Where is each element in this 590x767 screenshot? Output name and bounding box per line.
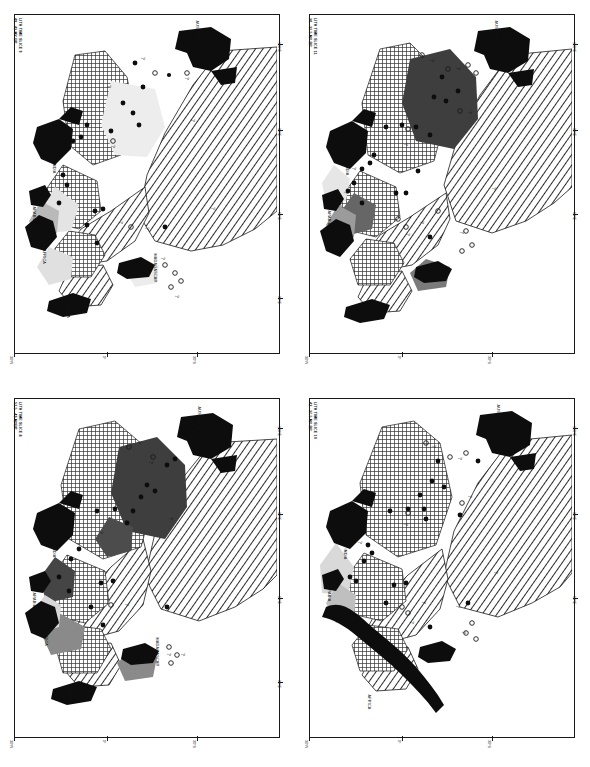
lat-tick-0: 0°: [102, 740, 106, 743]
svg-text:?: ?: [351, 167, 357, 170]
lat-tick-30s: 30°S: [192, 740, 196, 748]
continent-label-madagascar: MADAGASCAR: [155, 637, 159, 666]
continent-label-s-africa: S. AFRICA: [68, 684, 72, 704]
lat-tick-0: 0°: [397, 356, 401, 359]
axis-tick: [573, 214, 578, 215]
lat-tick-30n: 30°N: [9, 740, 13, 748]
axis-tick: [278, 44, 283, 45]
svg-text:?: ?: [166, 653, 172, 656]
axis-tick: [14, 352, 15, 357]
svg-text:?: ?: [467, 111, 473, 114]
svg-text:?: ?: [491, 187, 497, 190]
svg-text:?: ?: [174, 295, 180, 298]
svg-text:?: ?: [144, 227, 150, 230]
svg-text:?: ?: [210, 207, 216, 210]
svg-text:?: ?: [403, 523, 409, 526]
svg-text:?: ?: [403, 143, 409, 146]
axis-tick: [402, 352, 403, 357]
axis-tick: [573, 130, 578, 131]
lat-tick-0: 0°: [397, 740, 401, 743]
lat-tick-30n: 30°N: [9, 356, 13, 364]
svg-text:?: ?: [467, 495, 473, 498]
map-artwork: ? ? ? ? ? ? ? ? ? ?: [310, 15, 572, 351]
continent-label-india: INDIA: [52, 546, 56, 557]
axis-tick: [107, 352, 108, 357]
axis-tick: [492, 736, 493, 741]
axis-tick: [492, 352, 493, 357]
svg-text:?: ?: [357, 541, 363, 544]
continent-label-arabia: ARABIA: [32, 592, 36, 607]
axis-tick: [309, 352, 310, 357]
axis-tick: [573, 428, 578, 429]
svg-text:?: ?: [98, 531, 104, 534]
axis-tick: [278, 514, 283, 515]
lat-tick-30s: 30°S: [487, 356, 491, 364]
continent-label-india: INDIA: [345, 164, 349, 175]
svg-text:?: ?: [455, 605, 461, 608]
continent-label-s-africa: S. AFRICA: [66, 298, 70, 318]
axis-tick: [278, 428, 283, 429]
svg-text:?: ?: [459, 231, 465, 234]
svg-text:?: ?: [136, 441, 142, 444]
figure-page: LITH TIME SLICE 9 49 - 43 MY BP 30°N 0° …: [0, 0, 590, 767]
axis-tick: [309, 736, 310, 741]
continent-label-india: INDIA: [52, 162, 56, 173]
axis-tick: [278, 214, 283, 215]
continent-label-africa: AFRICA: [363, 306, 367, 321]
panel-bottom-right: LITH TIME SLICE 10 43 - 37.5 MY BP 30°N …: [295, 384, 590, 767]
continent-label-arabia: ARABIA: [327, 586, 331, 601]
lat-tick-30n: 30°N: [304, 740, 308, 748]
svg-text:?: ?: [160, 257, 166, 260]
continent-label-australia: AUSTRALIA: [494, 21, 498, 44]
axis-tick: [278, 130, 283, 131]
svg-text:?: ?: [148, 461, 154, 464]
continent-label-madagascar: MADAGASCAR: [153, 253, 157, 282]
lat-tick-0: 0°: [102, 356, 106, 359]
svg-text:?: ?: [168, 517, 174, 520]
svg-text:?: ?: [110, 145, 116, 148]
axis-tick: [197, 352, 198, 357]
svg-text:?: ?: [180, 653, 186, 656]
panel-top-right: LITH TIME SLICE 11 30 - 32.5 MY BP 30°N …: [295, 0, 590, 384]
svg-text:?: ?: [409, 621, 415, 624]
svg-text:?: ?: [461, 631, 467, 634]
continent-label-australia: AUSTRALIA: [195, 21, 199, 44]
svg-text:?: ?: [421, 601, 427, 604]
continent-label-e-africa: E. AFRICA: [42, 244, 46, 264]
continent-label-africa: AFRICA: [367, 694, 371, 709]
axis-tick: [278, 298, 283, 299]
continent-label-arabia: ARABIA: [327, 210, 331, 225]
panel-bottom-left: LITH TIME SLICE 8 52.5 - 49 MYBP 30°N 0°…: [0, 384, 295, 767]
lat-tick-30s: 30°S: [192, 356, 196, 364]
svg-text:?: ?: [405, 233, 411, 236]
svg-text:?: ?: [118, 221, 124, 224]
map-artwork: ? ? ? ? ? ? ?: [15, 399, 277, 735]
svg-text:?: ?: [124, 603, 130, 606]
continent-label-india: INDIA: [343, 548, 347, 559]
svg-text:?: ?: [343, 191, 349, 194]
svg-text:?: ?: [431, 445, 437, 448]
svg-text:?: ?: [184, 77, 190, 80]
lat-tick-30s: 30°S: [487, 740, 491, 748]
map-artwork: ? ? ? ? ? ? ? ? ? ?: [15, 15, 277, 351]
axis-tick: [278, 598, 283, 599]
svg-text:?: ?: [106, 85, 112, 88]
axis-tick: [573, 44, 578, 45]
axis-tick: [402, 736, 403, 741]
axis-tick: [197, 736, 198, 741]
axis-tick: [573, 598, 578, 599]
map-artwork: ? ? ? ? ? ? ? ? ? ?: [310, 399, 572, 735]
axis-tick: [573, 514, 578, 515]
svg-text:?: ?: [429, 59, 435, 62]
svg-text:?: ?: [140, 57, 146, 60]
svg-text:?: ?: [457, 457, 463, 460]
svg-text:?: ?: [419, 221, 425, 224]
svg-text:?: ?: [190, 119, 196, 122]
axis-tick: [278, 682, 283, 683]
svg-text:?: ?: [455, 67, 461, 70]
continent-label-australia: AUSTRALIA: [197, 407, 201, 430]
panel-top-left: LITH TIME SLICE 9 49 - 43 MY BP 30°N 0° …: [0, 0, 295, 384]
axis-tick: [14, 736, 15, 741]
axis-tick: [107, 736, 108, 741]
lat-tick-30n: 30°N: [304, 356, 308, 364]
